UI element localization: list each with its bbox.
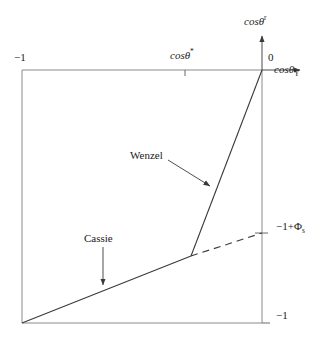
wenzel-annotation-label: Wenzel <box>130 150 163 161</box>
wenzel-arrow <box>168 160 210 186</box>
origin-label: 0 <box>268 52 274 63</box>
cassie-line <box>22 256 191 323</box>
y-axis-min-label: −1 <box>276 310 288 321</box>
x-axis-min-label: −1 <box>14 52 26 63</box>
data-curves <box>22 70 262 323</box>
cassie-intercept-label: −1+Φs <box>276 221 305 232</box>
plot-frame <box>22 70 262 323</box>
cos-theta-star-label: cosθ* <box>170 50 194 61</box>
y-axis-label: cosθr <box>244 16 267 27</box>
wetting-state-diagram: cosθr cosθY cosθ* −1 0 −1+Φs −1 Wenzel C… <box>0 0 322 339</box>
annotation-arrows <box>103 160 210 285</box>
cassie-annotation-label: Cassie <box>84 233 113 244</box>
cassie-dashed-extension <box>191 233 262 256</box>
x-axis-label: cosθY <box>274 64 300 75</box>
wenzel-line <box>191 70 262 256</box>
tick-marks <box>185 70 270 323</box>
